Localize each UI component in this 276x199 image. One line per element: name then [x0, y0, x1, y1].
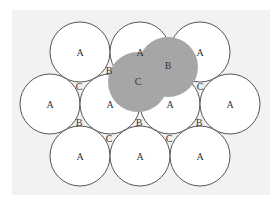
label-gap-b-top: B	[106, 65, 113, 76]
label-a-mid-3: A	[166, 99, 174, 110]
sphere-packing-diagram: A A A A A A A A A A C B B C C B B B C C	[0, 0, 276, 199]
label-gap-c-bot-1: C	[106, 133, 113, 144]
label-shaded-b: B	[165, 60, 172, 71]
label-gap-b-bot-3: B	[196, 117, 203, 128]
label-a-bot-left: A	[76, 151, 84, 162]
label-gap-c-top-left: C	[76, 81, 83, 92]
label-a-top-right: A	[196, 47, 204, 58]
label-a-mid-2: A	[106, 99, 114, 110]
label-a-mid-4: A	[226, 99, 234, 110]
label-a-bot-right: A	[196, 151, 204, 162]
label-a-bot-mid: A	[136, 151, 144, 162]
label-gap-b-bot-1: B	[76, 117, 83, 128]
diagram-svg: A A A A A A A A A A C B B C C B B B C C	[0, 0, 276, 199]
label-shaded-c: C	[135, 76, 142, 87]
label-gap-c-top-right: C	[197, 81, 204, 92]
label-a-top-mid: A	[136, 47, 144, 58]
label-gap-c-bot-2: C	[166, 133, 173, 144]
label-gap-b-bot-2: B	[136, 117, 143, 128]
label-a-mid-1: A	[46, 99, 54, 110]
label-a-top-left: A	[76, 47, 84, 58]
